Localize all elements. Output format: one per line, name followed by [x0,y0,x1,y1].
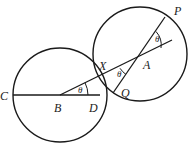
label-D: D [88,101,98,115]
angle-arc-B [85,83,88,95]
line-BXA [60,40,172,95]
label-A: A [142,58,151,72]
theta-label-B: θ [78,85,83,95]
label-C: C [0,89,9,103]
chord-PQ [113,17,165,93]
theta-label-P: θ [155,34,160,44]
label-B: B [54,101,62,115]
label-Q: Q [121,86,130,100]
theta-label-XAQ: θ [117,69,122,79]
geometry-diagram: C B D X A Q P θ θ θ [0,0,188,144]
label-P: P [173,4,182,18]
label-X: X [98,59,107,73]
